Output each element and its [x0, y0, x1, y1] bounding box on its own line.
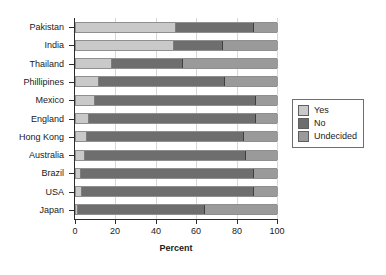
bar-row [75, 95, 277, 106]
bar-track [75, 22, 277, 33]
bar-segment-undecided [246, 151, 278, 160]
bar-segment-undecided [256, 96, 278, 105]
legend-item-no[interactable]: No [298, 117, 357, 129]
bar-track [75, 168, 277, 179]
plot-area [75, 18, 277, 219]
y-axis-tick [69, 100, 75, 101]
bar-segment-undecided [256, 114, 278, 123]
bar-row [75, 204, 277, 215]
y-axis-label-phillipines: Phillipines [0, 77, 64, 87]
bar-segment-no [85, 151, 246, 160]
bar-row [75, 150, 277, 161]
bar-segment-no [99, 77, 225, 86]
bar-track [75, 131, 277, 142]
x-axis-tick [196, 219, 197, 224]
bar-row [75, 168, 277, 179]
legend-swatch-undecided [298, 131, 309, 142]
y-axis-label-japan: Japan [0, 205, 64, 215]
y-axis-tick [69, 45, 75, 46]
bar-track [75, 186, 277, 197]
x-axis-tick [156, 219, 157, 224]
bar-segment-yes [76, 41, 174, 50]
y-axis-tick [69, 64, 75, 65]
x-axis-tick [277, 219, 278, 224]
legend-item-yes[interactable]: Yes [298, 104, 357, 116]
y-axis-label-thailand: Thailand [0, 59, 64, 69]
bar-row [75, 40, 277, 51]
bar-segment-no [81, 169, 254, 178]
y-axis-tick [69, 137, 75, 138]
bar-segment-yes [76, 96, 95, 105]
bar-segment-yes [76, 132, 87, 141]
bar-segment-undecided [254, 187, 278, 196]
x-axis-label-80: 80 [222, 226, 252, 237]
y-axis-label-australia: Australia [0, 150, 64, 160]
bar-segment-no [89, 114, 256, 123]
bar-segment-no [112, 59, 183, 68]
bar-row [75, 76, 277, 87]
stacked-bar-chart: PakistanIndiaThailandPhillipinesMexicoEn… [0, 0, 386, 275]
legend-label-undecided: Undecided [314, 131, 357, 141]
bar-segment-undecided [254, 23, 278, 32]
legend-label-no: No [314, 118, 326, 128]
legend-label-yes: Yes [314, 105, 329, 115]
x-axis-tick [75, 219, 76, 224]
x-axis-label-20: 20 [100, 226, 130, 237]
y-axis-tick [69, 173, 75, 174]
x-axis-tick [237, 219, 238, 224]
bar-track [75, 204, 277, 215]
bar-segment-no [78, 205, 205, 214]
bar-segment-undecided [225, 77, 278, 86]
x-axis-title: Percent [75, 243, 277, 253]
y-axis-label-pakistan: Pakistan [0, 22, 64, 32]
bar-segment-undecided [244, 132, 278, 141]
x-axis-label-100: 100 [262, 226, 292, 237]
bar-segment-no [95, 96, 256, 105]
bar-track [75, 40, 277, 51]
bar-segment-yes [76, 114, 89, 123]
x-axis-line [74, 219, 278, 220]
y-axis-label-england: England [0, 114, 64, 124]
y-axis-tick [69, 192, 75, 193]
bar-track [75, 95, 277, 106]
x-axis-label-40: 40 [141, 226, 171, 237]
bar-segment-yes [76, 59, 112, 68]
y-axis-tick [69, 27, 75, 28]
legend-swatch-no [298, 118, 309, 129]
bar-row [75, 58, 277, 69]
legend-item-undecided[interactable]: Undecided [298, 130, 357, 142]
bar-segment-undecided [205, 205, 278, 214]
y-axis-tick [69, 210, 75, 211]
y-axis-label-mexico: Mexico [0, 95, 64, 105]
bar-segment-no [82, 187, 254, 196]
bar-track [75, 76, 277, 87]
x-axis-tick [115, 219, 116, 224]
bar-segment-yes [76, 77, 99, 86]
bar-track [75, 113, 277, 124]
y-axis-label-brazil: Brazil [0, 168, 64, 178]
legend-swatch-yes [298, 105, 309, 116]
bar-segment-no [87, 132, 244, 141]
bar-row [75, 113, 277, 124]
bar-row [75, 22, 277, 33]
y-axis-tick [69, 82, 75, 83]
bar-track [75, 150, 277, 161]
bar-segment-yes [76, 151, 85, 160]
bar-segment-no [174, 41, 223, 50]
chart-legend: Yes No Undecided [292, 99, 364, 148]
bar-track [75, 58, 277, 69]
bar-segment-undecided [223, 41, 278, 50]
bar-row [75, 131, 277, 142]
y-axis-tick [69, 119, 75, 120]
bar-segment-no [176, 23, 254, 32]
y-axis-tick [69, 155, 75, 156]
y-axis-label-usa: USA [0, 187, 64, 197]
x-axis-label-0: 0 [60, 226, 90, 237]
bar-row [75, 186, 277, 197]
bar-segment-undecided [254, 169, 278, 178]
bar-segment-yes [76, 23, 176, 32]
x-axis-label-60: 60 [181, 226, 211, 237]
bar-segment-undecided [183, 59, 278, 68]
y-axis-label-hong-kong: Hong Kong [0, 132, 64, 142]
y-axis-label-india: India [0, 40, 64, 50]
